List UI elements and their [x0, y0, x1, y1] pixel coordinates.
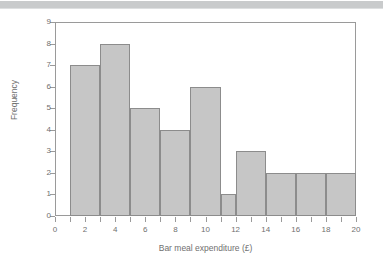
histogram-bar [221, 194, 236, 216]
page-root: 0123456789 02468101214161820 Frequency B… [0, 0, 383, 269]
x-axis-tick [206, 217, 207, 222]
histogram-bar [236, 151, 266, 216]
x-axis-tick [55, 217, 56, 222]
x-axis-tick [190, 217, 191, 222]
y-axis-title: Frequency [9, 70, 19, 130]
x-axis-tick [160, 217, 161, 222]
x-axis-tick-label: 6 [133, 225, 157, 234]
histogram-bar [326, 173, 356, 216]
histogram-bar [100, 44, 130, 216]
x-axis-tick-label: 0 [43, 225, 67, 234]
histogram-bar [266, 173, 296, 216]
y-axis-tick-label: 0 [31, 212, 51, 220]
y-axis-tick-label: 7 [31, 61, 51, 69]
x-axis-tick [145, 217, 146, 222]
x-axis-tick [100, 217, 101, 222]
x-axis-tick-label: 2 [73, 225, 97, 234]
x-axis-tick-label: 4 [103, 225, 127, 234]
x-axis-tick [326, 217, 327, 222]
x-axis-tick-label: 16 [284, 225, 308, 234]
bars-layer [55, 22, 356, 216]
x-axis-tick-label: 14 [254, 225, 278, 234]
y-axis-tick-label: 9 [31, 18, 51, 26]
y-axis-tick-label: 2 [31, 169, 51, 177]
histogram-bar [190, 87, 220, 216]
x-axis-tick-label: 8 [163, 225, 187, 234]
x-axis-tick [296, 217, 297, 222]
x-axis-tick [311, 217, 312, 222]
x-axis-tick [236, 217, 237, 222]
y-axis-tick-label: 5 [31, 104, 51, 112]
x-axis-tick [85, 217, 86, 222]
y-axis-tick-label: 4 [31, 126, 51, 134]
x-axis-title: Bar meal expenditure (£) [55, 243, 356, 253]
x-axis-tick [251, 217, 252, 222]
y-axis-tick-label: 6 [31, 83, 51, 91]
histogram-bar [70, 65, 100, 216]
y-axis-tick-label: 8 [31, 40, 51, 48]
histogram-bar [160, 130, 190, 216]
histogram-chart: 0123456789 02468101214161820 Frequency B… [0, 0, 383, 269]
histogram-bar [130, 108, 160, 216]
x-axis-tick [115, 217, 116, 222]
x-axis-tick-label: 20 [344, 225, 368, 234]
x-axis-tick [130, 217, 131, 222]
x-axis-tick [70, 217, 71, 222]
x-axis-tick [281, 217, 282, 222]
x-axis-tick-label: 12 [224, 225, 248, 234]
x-axis-tick-label: 18 [314, 225, 338, 234]
x-axis-tick [221, 217, 222, 222]
x-axis-tick [341, 217, 342, 222]
x-axis-tick [356, 217, 357, 222]
y-axis-tick-label: 1 [31, 190, 51, 198]
y-axis-tick-label: 3 [31, 147, 51, 155]
x-axis-tick-label: 10 [194, 225, 218, 234]
x-axis-tick [266, 217, 267, 222]
histogram-bar [296, 173, 326, 216]
x-axis-tick [175, 217, 176, 222]
